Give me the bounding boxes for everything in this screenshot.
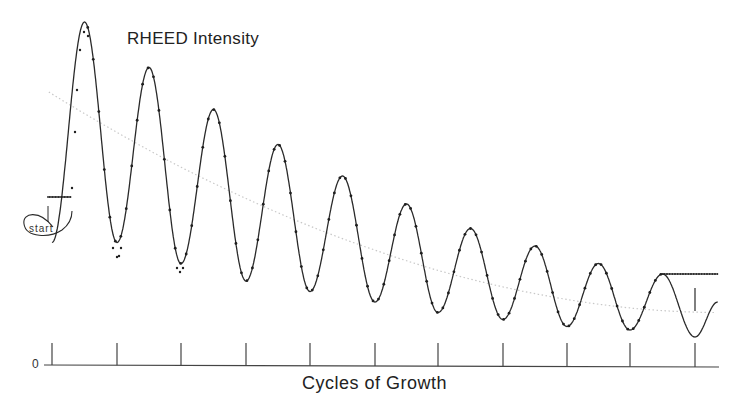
x-axis [44, 288, 719, 367]
start-label: start [29, 223, 53, 234]
chart-title: RHEED Intensity [127, 29, 259, 49]
fit-curve [52, 22, 718, 337]
rheed-chart [0, 0, 737, 416]
x-axis-label: Cycles of Growth [302, 373, 447, 394]
y-origin-label: 0 [32, 357, 39, 371]
data-points [47, 26, 718, 331]
background-trend-line [49, 92, 715, 313]
